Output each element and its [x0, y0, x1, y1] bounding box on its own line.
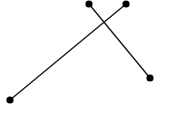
endpoint-marker-p2	[122, 0, 129, 7]
canvas-background	[0, 0, 173, 115]
endpoint-marker-p4	[6, 96, 13, 103]
diagram-canvas	[0, 0, 173, 115]
endpoint-marker-p1	[85, 0, 92, 7]
diagram-figure	[0, 0, 173, 115]
endpoint-marker-p3	[146, 74, 153, 81]
